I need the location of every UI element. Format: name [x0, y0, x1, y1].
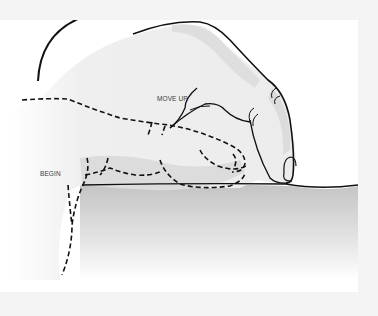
begin-label: BEGIN	[40, 170, 61, 177]
hand-exercise-illustration	[0, 20, 358, 292]
illustration-frame: MOVE UP BEGIN	[0, 20, 358, 292]
table-surface	[80, 184, 358, 280]
move-up-label: MOVE UP	[157, 95, 188, 102]
